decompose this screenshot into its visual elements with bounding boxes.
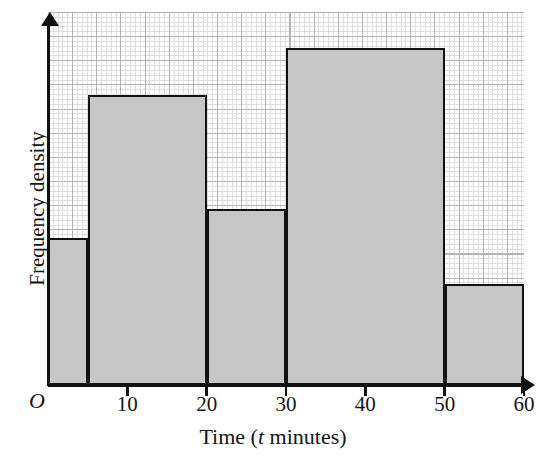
x-axis-tick-label: 40 xyxy=(335,394,395,415)
x-axis-tick-label: 60 xyxy=(494,394,546,415)
x-axis-tick-label: 20 xyxy=(177,394,237,415)
x-axis-tick-label: 30 xyxy=(256,394,316,415)
histogram-bar xyxy=(207,209,286,385)
x-axis-title: Time (t minutes) xyxy=(0,426,546,448)
x-axis-tick-label: 10 xyxy=(97,394,157,415)
histogram-figure: 102030405060 O Frequency density Time (t… xyxy=(0,0,546,461)
y-axis-arrow-icon xyxy=(41,12,59,26)
histogram-bar xyxy=(445,284,524,385)
x-axis-title-prefix: Time ( xyxy=(199,424,257,449)
histogram-bar xyxy=(48,238,88,385)
origin-label: O xyxy=(29,390,45,412)
x-axis-tick-label: 50 xyxy=(415,394,475,415)
histogram-bar xyxy=(88,95,207,385)
x-axis-title-suffix: minutes) xyxy=(264,424,347,449)
histogram-bar xyxy=(286,48,445,385)
plot-area xyxy=(48,12,524,385)
y-axis-title: Frequency density xyxy=(27,94,48,324)
